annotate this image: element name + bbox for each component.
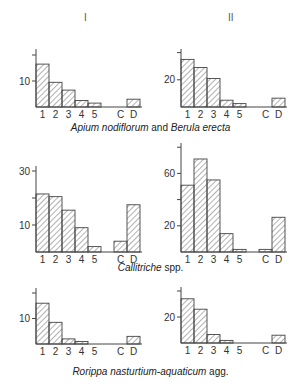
- bar-4: [220, 234, 233, 252]
- bar-2: [194, 309, 207, 343]
- x-tick-label: C: [117, 346, 124, 357]
- bar-3: [207, 180, 220, 252]
- x-tick-label: D: [275, 345, 282, 356]
- x-tick-label: D: [130, 346, 137, 357]
- panel-row1-col2: 2012345CD: [164, 49, 287, 120]
- bar-2: [194, 159, 207, 252]
- x-tick-label: 3: [211, 109, 217, 120]
- bar-D: [272, 98, 285, 107]
- x-tick-label: 2: [198, 109, 204, 120]
- x-tick-label: C: [262, 109, 269, 120]
- bar-1: [36, 303, 49, 344]
- bar-3: [62, 90, 75, 107]
- bar-3: [207, 335, 220, 343]
- x-tick-label: 5: [237, 109, 243, 120]
- x-tick-label: 1: [40, 346, 46, 357]
- panel-row3-col1: 1012345CD: [19, 288, 142, 357]
- bar-3: [207, 78, 220, 107]
- x-tick-label: D: [275, 109, 282, 120]
- panel-row1-col1: 1012345CD: [19, 49, 142, 120]
- x-tick-label: D: [130, 109, 137, 120]
- caption-row1: Apium nodiflorum and Berula erecta: [0, 122, 301, 133]
- x-tick-label: 2: [198, 345, 204, 356]
- x-tick-label: C: [117, 109, 124, 120]
- bar-D: [272, 335, 285, 343]
- bar-2: [49, 82, 62, 107]
- x-tick-label: 5: [92, 346, 98, 357]
- x-tick-label: 4: [224, 109, 230, 120]
- caption-row3: Rorippa nasturtium-aquaticum agg.: [0, 366, 301, 377]
- x-tick-label: 4: [79, 109, 85, 120]
- bar-2: [49, 197, 62, 252]
- bar-D: [127, 205, 140, 252]
- x-tick-label: 3: [66, 109, 72, 120]
- histogram-figure: 1012345CD2012345CD103012345CD206012345CD…: [0, 0, 301, 390]
- panel-row3-col2: 2012345CD: [164, 287, 287, 356]
- bar-3: [62, 210, 75, 252]
- x-tick-label: 1: [185, 109, 191, 120]
- bar-1: [181, 59, 194, 107]
- y-tick-label: 10: [19, 220, 31, 231]
- bar-1: [181, 185, 194, 252]
- y-tick-label: 20: [164, 312, 176, 323]
- bar-1: [36, 194, 49, 252]
- x-tick-label: C: [262, 345, 269, 356]
- panel-row2-col2: 206012345CD: [164, 143, 287, 265]
- x-tick-label: 4: [79, 346, 85, 357]
- bar-C: [114, 241, 127, 252]
- bar-D: [127, 336, 140, 344]
- bar-4: [75, 101, 88, 108]
- caption-row2: Callitriche spp.: [0, 262, 301, 273]
- bar-D: [272, 217, 285, 252]
- bar-5: [88, 247, 101, 252]
- bar-1: [36, 64, 49, 107]
- bar-3: [62, 339, 75, 344]
- x-tick-label: 2: [53, 109, 59, 120]
- bar-1: [181, 299, 194, 343]
- bar-2: [49, 322, 62, 344]
- y-tick-label: 10: [19, 76, 31, 87]
- x-tick-label: 3: [211, 345, 217, 356]
- x-tick-label: 4: [224, 345, 230, 356]
- x-tick-label: 5: [92, 109, 98, 120]
- x-tick-label: 1: [40, 109, 46, 120]
- y-tick-label: 20: [164, 220, 176, 231]
- y-tick-label: 10: [19, 313, 31, 324]
- x-tick-label: 2: [53, 346, 59, 357]
- x-tick-label: 5: [237, 345, 243, 356]
- bar-5: [88, 103, 101, 107]
- bar-D: [127, 99, 140, 107]
- x-tick-label: 3: [66, 346, 72, 357]
- x-tick-label: 1: [185, 345, 191, 356]
- bar-5: [233, 104, 246, 107]
- y-tick-label: 20: [164, 74, 176, 85]
- bar-4: [75, 228, 88, 252]
- y-tick-label: 60: [164, 168, 176, 179]
- bar-4: [220, 100, 233, 107]
- y-tick-label: 30: [19, 166, 31, 177]
- panel-row2-col1: 103012345CD: [19, 166, 142, 266]
- bar-2: [194, 68, 207, 107]
